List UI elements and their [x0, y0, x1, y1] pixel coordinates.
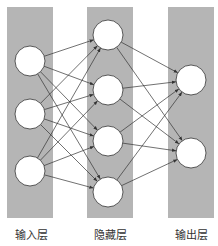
input-node-3 — [15, 156, 45, 186]
hidden-node-3 — [93, 126, 123, 156]
hidden-node-4 — [93, 177, 123, 207]
output-node-2 — [176, 138, 206, 168]
hidden-node-1 — [93, 20, 123, 50]
neural-network-diagram — [0, 0, 218, 246]
output-node-1 — [176, 65, 206, 95]
hidden-node-2 — [93, 75, 123, 105]
output-layer-label: 输出层 — [161, 226, 218, 242]
input-node-2 — [15, 99, 45, 129]
input-node-1 — [15, 46, 45, 76]
input-layer-label: 输入层 — [1, 226, 61, 242]
hidden-layer-label: 隐藏层 — [80, 226, 140, 242]
output-layer-band — [168, 7, 214, 218]
